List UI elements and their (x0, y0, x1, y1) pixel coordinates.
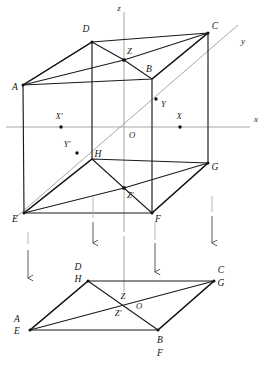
dot-A (22, 84, 25, 87)
lower-figure-edges (30, 281, 214, 330)
dot-Y (154, 97, 157, 100)
cube-inner-lines (23, 33, 208, 213)
diag-Z-C (124, 33, 208, 60)
diag-A-D (23, 42, 92, 85)
vertex-label-H: H (94, 149, 103, 159)
lower-label-G: G (218, 278, 225, 288)
lower-label-F: F (156, 348, 163, 358)
diag-B-C (152, 33, 208, 79)
lower-labels: D H C G A E B F Z Z' O (13, 262, 225, 358)
point-label-X-prime: X' (54, 111, 62, 121)
vertex-label-C: C (212, 21, 219, 31)
lower-dot-BF (157, 329, 160, 332)
axis-label-z: z (116, 3, 121, 13)
vertex-label-A: A (11, 82, 18, 92)
dot-C (207, 32, 210, 35)
diag-F-G (152, 163, 208, 213)
vertex-label-D: D (82, 24, 90, 34)
cube-top-face (23, 33, 208, 85)
point-label-Z: Z (127, 46, 132, 56)
geometry-figure: A B C D E F G H Z Z' Y Y' X X' z y x O (0, 0, 268, 369)
dot-E (23, 212, 26, 215)
lower-dot-DH (87, 280, 90, 283)
dot-Xp (59, 125, 62, 128)
dot-Zp (122, 186, 125, 189)
origin-label: O (129, 130, 135, 140)
lower-dot-AE (29, 329, 32, 332)
lower-point-label-Z: Z (121, 291, 126, 301)
cube-edges (23, 33, 208, 213)
diag-H-Zp (92, 159, 124, 188)
lower-label-E: E (13, 326, 20, 336)
lower-point-label-O: O (136, 301, 142, 311)
vertex-label-E: E (11, 214, 18, 224)
point-label-Z-prime: Z' (127, 190, 134, 200)
cube-edge-AE (23, 85, 24, 213)
diag-D-Z (92, 42, 124, 60)
lower-label-B: B (157, 335, 163, 345)
dot-D (91, 41, 94, 44)
vertex-label-G: G (212, 162, 219, 172)
projection-arrows (28, 196, 212, 292)
dot-G (207, 162, 210, 165)
dot-F (151, 212, 154, 215)
lower-point-label-Z-prime: Z' (115, 308, 122, 318)
figure-canvas: A B C D E F G H Z Z' Y Y' X X' z y x O (0, 0, 268, 369)
lower-label-D: D (74, 262, 82, 272)
lower-label-A: A (13, 314, 20, 324)
lower-dot-CG (213, 280, 216, 283)
point-label-X: X (175, 111, 182, 121)
axis-label-y: y (240, 36, 245, 46)
diag-Zp-G (124, 163, 208, 188)
point-label-Y-prime: Y' (64, 139, 71, 149)
lower-label-H: H (74, 274, 83, 284)
dot-X (178, 125, 181, 128)
dot-Z (122, 58, 125, 61)
lower-label-C: C (218, 265, 225, 275)
dot-Yp (75, 151, 78, 154)
point-label-Y: Y (161, 99, 167, 109)
axis-label-x: x (253, 114, 258, 124)
upper-labels: A B C D E F G H Z Z' Y Y' X X' z y x O (11, 3, 258, 224)
vertex-label-B: B (146, 64, 152, 74)
